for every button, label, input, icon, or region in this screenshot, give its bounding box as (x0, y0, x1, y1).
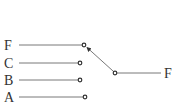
terminal-node (78, 61, 82, 65)
terminal-node (78, 78, 82, 82)
input-label: C (4, 56, 13, 71)
input-label: A (4, 90, 15, 105)
input-b: B (4, 73, 82, 88)
common-node (113, 71, 117, 75)
output-f: F (113, 66, 172, 81)
input-label: F (4, 38, 12, 53)
switch-arrow (87, 48, 113, 72)
terminal-node (82, 43, 86, 47)
input-a: A (4, 90, 87, 105)
input-f: F (4, 38, 86, 53)
terminal-node (83, 95, 87, 99)
switch-diagram: F C B A F (0, 0, 175, 111)
output-label: F (164, 66, 172, 81)
input-c: C (4, 56, 82, 71)
input-label: B (4, 73, 13, 88)
